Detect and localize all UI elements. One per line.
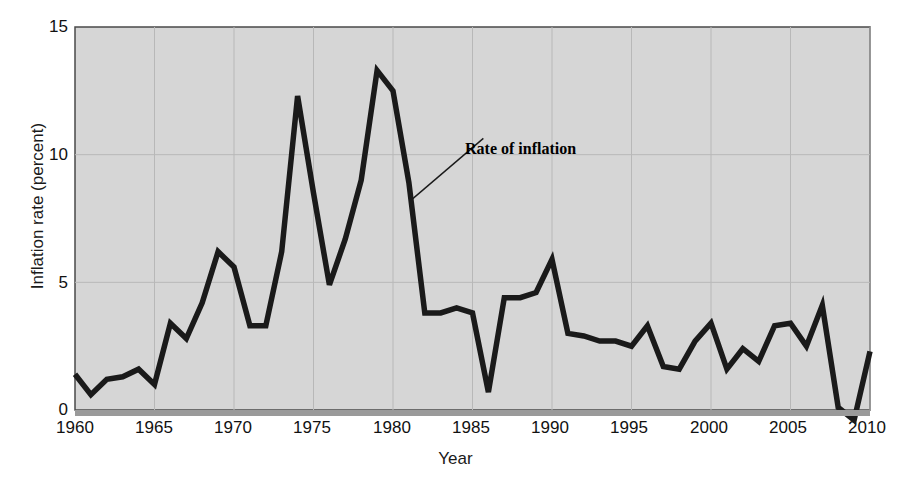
inflation-rate-chart: Inflation rate (percent) Year 15 10 5 0 …: [0, 0, 911, 481]
plot-area: [0, 0, 911, 481]
series-annotation-label: Rate of inflation: [465, 140, 576, 158]
